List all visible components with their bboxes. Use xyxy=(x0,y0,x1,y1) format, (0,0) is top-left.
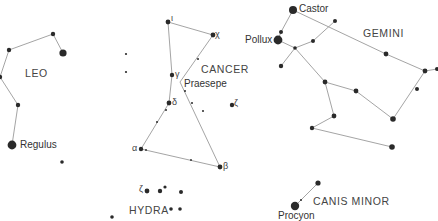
star-icon xyxy=(8,141,17,150)
star-icon xyxy=(423,69,428,74)
star-icon xyxy=(166,20,171,25)
star-icon xyxy=(332,114,337,119)
star-icon xyxy=(51,32,55,36)
greek-label-beta: β xyxy=(223,162,228,171)
constellation-line xyxy=(9,34,63,53)
star-icon xyxy=(163,185,166,188)
constellation-label-hydra: HYDRA xyxy=(129,205,169,216)
star-icon xyxy=(274,36,283,45)
greek-label-alpha: α xyxy=(132,144,137,153)
constellation-line xyxy=(312,128,392,147)
star-icon xyxy=(59,49,66,56)
star-icon xyxy=(279,64,283,68)
star-icon xyxy=(110,215,114,219)
star-icon xyxy=(323,80,328,85)
star-icon xyxy=(167,101,172,106)
star-icon xyxy=(0,75,2,79)
greek-label-zeta-hydra: ζ xyxy=(139,185,143,194)
star-icon xyxy=(218,165,223,170)
star-icon xyxy=(311,39,315,43)
star-icon xyxy=(125,71,127,73)
greek-label-iota: ι xyxy=(171,14,173,23)
star-icon xyxy=(333,19,337,23)
constellation-line xyxy=(312,82,334,128)
star-icon xyxy=(415,87,419,91)
star-icon xyxy=(291,202,299,210)
star-icon xyxy=(145,189,150,194)
star-icon xyxy=(158,189,162,193)
star-icon xyxy=(139,147,143,151)
star-icon xyxy=(145,149,147,151)
star-icon xyxy=(354,89,359,94)
constellation-label-leo: LEO xyxy=(25,68,48,79)
star-icon xyxy=(184,90,186,92)
star-icon xyxy=(178,207,182,211)
greek-label-zeta-cancer: ζ xyxy=(234,99,238,108)
star-label-pollux: Pollux xyxy=(245,35,272,45)
star-icon xyxy=(7,48,11,52)
constellation-line xyxy=(180,35,220,167)
star-icon xyxy=(390,116,396,122)
constellation-line xyxy=(278,10,335,48)
constellation-label-canis-minor: CANIS MINOR xyxy=(313,196,390,207)
constellation-label-gemini: GEMINI xyxy=(363,28,404,39)
star-icon xyxy=(279,30,283,34)
constellation-line xyxy=(0,50,18,145)
star-label-regulus: Regulus xyxy=(20,140,57,150)
constellation-line xyxy=(281,48,295,66)
star-icon xyxy=(179,190,183,194)
star-icon xyxy=(190,159,192,161)
greek-label-delta: δ xyxy=(172,98,177,107)
star-icon xyxy=(169,207,173,211)
constellation-label-cancer: CANCER xyxy=(201,64,249,75)
star-icon xyxy=(315,180,320,185)
star-icon xyxy=(384,52,389,57)
star-icon xyxy=(125,53,127,55)
constellation-line xyxy=(295,48,425,119)
star-icon xyxy=(310,126,314,130)
star-label-castor: Castor xyxy=(299,4,328,14)
star-icon xyxy=(197,58,199,60)
star-icon xyxy=(165,109,167,111)
star-icon xyxy=(293,46,297,50)
greek-label-gamma: γ xyxy=(175,70,180,79)
star-icon xyxy=(389,144,395,150)
star-icon xyxy=(300,199,302,201)
star-icon xyxy=(202,110,204,112)
greek-label-chi: χ xyxy=(215,30,220,39)
star-icon xyxy=(289,6,297,14)
star-icon xyxy=(191,102,193,104)
star-label-praesepe: Praesepe xyxy=(184,79,227,89)
constellation-line xyxy=(141,22,220,167)
star-label-procyon: Procyon xyxy=(278,211,315,221)
star-icon xyxy=(60,160,64,164)
star-icon xyxy=(170,73,174,77)
star-icon xyxy=(16,103,20,107)
star-icon xyxy=(156,121,158,123)
